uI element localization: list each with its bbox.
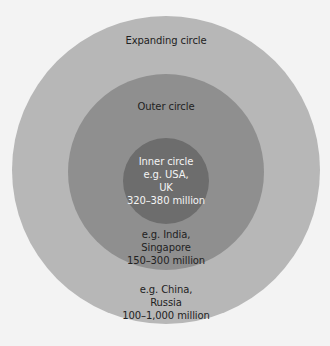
outer-circle-example-line-2: Singapore — [127, 241, 205, 254]
expanding-circle-examples: e.g. China, Russia 100–1,000 million — [122, 283, 210, 322]
inner-circle-example-line-2: UK — [127, 181, 205, 194]
outer-circle-population: 150–300 million — [127, 254, 205, 267]
expanding-circle-population: 100–1,000 million — [122, 309, 210, 322]
outer-circle-examples: e.g. India, Singapore 150–300 million — [127, 228, 205, 267]
expanding-circle-title: Expanding circle — [125, 34, 206, 47]
expanding-circle-title-text: Expanding circle — [125, 34, 206, 47]
outer-circle-title: Outer circle — [138, 100, 195, 113]
outer-circle-title-text: Outer circle — [138, 100, 195, 113]
inner-circle-population: 320–380 million — [127, 194, 205, 207]
expanding-circle-example-line-1: e.g. China, — [122, 283, 210, 296]
inner-circle-label: Inner circle e.g. USA, UK 320–380 millio… — [127, 155, 205, 207]
inner-circle-title-text: Inner circle — [127, 155, 205, 168]
outer-circle-example-line-1: e.g. India, — [127, 228, 205, 241]
inner-circle-example-line-1: e.g. USA, — [127, 168, 205, 181]
expanding-circle-example-line-2: Russia — [122, 296, 210, 309]
